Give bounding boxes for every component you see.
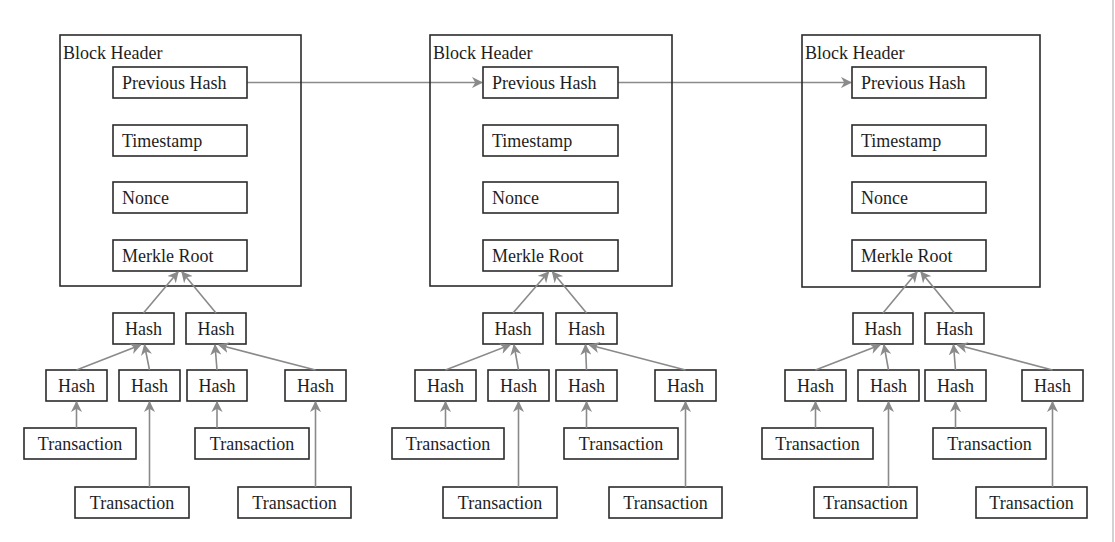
hash-node-l1: Hash <box>655 370 716 401</box>
field-nonce: Nonce <box>113 182 247 213</box>
hash-node-l1-label: Hash <box>500 376 537 396</box>
block-1: Block HeaderPrevious HashTimestampNonceM… <box>24 35 351 518</box>
transaction-node-label: Transaction <box>947 434 1031 454</box>
hash-node-l1-label: Hash <box>667 376 704 396</box>
field-nonce: Nonce <box>852 182 986 213</box>
block-header-title: Block Header <box>805 43 904 63</box>
field-timestamp: Timestamp <box>852 125 986 156</box>
field-previous-hash: Previous Hash <box>113 67 247 98</box>
transaction-node-label: Transaction <box>90 493 174 513</box>
hash-node-l2: Hash <box>556 313 617 344</box>
hash-node-l1-label: Hash <box>199 376 236 396</box>
hash-node-l1-label: Hash <box>937 376 974 396</box>
edge-l1-to-l2 <box>590 345 686 370</box>
edge-l1-to-l2 <box>145 345 150 370</box>
hash-node-l2-label: Hash <box>936 319 973 339</box>
transaction-node: Transaction <box>75 487 189 518</box>
transaction-node-label: Transaction <box>406 434 490 454</box>
edge-l2-to-root <box>883 272 917 313</box>
field-merkle-root-label: Merkle Root <box>861 246 953 266</box>
transaction-node: Transaction <box>762 428 873 459</box>
field-timestamp: Timestamp <box>113 125 247 156</box>
block-2: Block HeaderPrevious HashTimestampNonceM… <box>392 35 722 518</box>
field-previous-hash-label: Previous Hash <box>861 73 966 93</box>
edge-l2-to-root <box>182 272 216 313</box>
edge-l1-to-l2 <box>77 345 141 370</box>
transaction-node: Transaction <box>564 428 678 459</box>
transaction-node: Transaction <box>976 487 1087 518</box>
transaction-node: Transaction <box>195 428 309 459</box>
transaction-node-label: Transaction <box>252 493 336 513</box>
hash-node-l1-label: Hash <box>1034 376 1071 396</box>
transaction-node-label: Transaction <box>989 493 1073 513</box>
field-previous-hash-label: Previous Hash <box>492 73 597 93</box>
blockchain-diagram: Block HeaderPrevious HashTimestampNonceM… <box>0 0 1115 542</box>
field-timestamp-label: Timestamp <box>492 131 572 151</box>
field-nonce-label: Nonce <box>861 188 908 208</box>
hash-node-l2-label: Hash <box>125 319 162 339</box>
hash-node-l1-label: Hash <box>568 376 605 396</box>
edge-l2-to-root <box>144 272 179 313</box>
field-merkle-root-label: Merkle Root <box>492 246 584 266</box>
transaction-node-label: Transaction <box>579 434 663 454</box>
field-previous-hash: Previous Hash <box>852 67 986 98</box>
field-merkle-root: Merkle Root <box>852 240 986 271</box>
transaction-node-label: Transaction <box>458 493 542 513</box>
hash-node-l1: Hash <box>858 370 919 401</box>
edge-l1-to-l2 <box>884 345 889 370</box>
hash-node-l1: Hash <box>415 370 476 401</box>
transaction-node: Transaction <box>238 487 351 518</box>
edge-l1-to-l2 <box>958 345 1053 370</box>
field-timestamp: Timestamp <box>483 125 618 156</box>
hash-node-l1: Hash <box>187 370 247 401</box>
edge-l1-to-l2 <box>215 345 217 370</box>
hash-node-l2-label: Hash <box>568 319 605 339</box>
field-previous-hash: Previous Hash <box>483 67 618 98</box>
transaction-node: Transaction <box>609 487 722 518</box>
hash-node-l2: Hash <box>853 313 913 344</box>
field-merkle-root: Merkle Root <box>113 240 247 271</box>
transaction-node-label: Transaction <box>210 434 294 454</box>
transaction-node-label: Transaction <box>775 434 859 454</box>
field-nonce: Nonce <box>483 182 618 213</box>
hash-node-l2: Hash <box>483 313 543 344</box>
hash-node-l1-label: Hash <box>427 376 464 396</box>
hash-node-l2: Hash <box>925 313 984 344</box>
hash-node-l1-label: Hash <box>131 376 168 396</box>
hash-node-l1: Hash <box>285 370 346 401</box>
transaction-node: Transaction <box>933 428 1046 459</box>
edge-l2-to-root <box>553 272 587 313</box>
transaction-node-label: Transaction <box>823 493 907 513</box>
hash-node-l2-label: Hash <box>198 319 235 339</box>
hash-node-l1: Hash <box>925 370 986 401</box>
transaction-node-label: Transaction <box>38 434 122 454</box>
field-nonce-label: Nonce <box>492 188 539 208</box>
block-3: Block HeaderPrevious HashTimestampNonceM… <box>762 35 1087 518</box>
field-merkle-root-label: Merkle Root <box>122 246 214 266</box>
hash-node-l2: Hash <box>186 313 246 344</box>
field-previous-hash-label: Previous Hash <box>122 73 227 93</box>
hash-node-l2-label: Hash <box>865 319 902 339</box>
hash-node-l1-label: Hash <box>58 376 95 396</box>
blocks: Block HeaderPrevious HashTimestampNonceM… <box>24 35 1087 518</box>
hash-node-l1: Hash <box>488 370 549 401</box>
transaction-node: Transaction <box>24 428 136 459</box>
edge-l1-to-l2 <box>514 345 519 370</box>
block-header-title: Block Header <box>433 43 532 63</box>
transaction-node-label: Transaction <box>623 493 707 513</box>
transaction-node: Transaction <box>443 487 557 518</box>
hash-node-l1: Hash <box>46 370 107 401</box>
edge-l1-to-l2 <box>446 345 511 370</box>
hash-node-l2-label: Hash <box>495 319 532 339</box>
edge-l2-to-root <box>921 272 955 313</box>
edge-l2-to-root <box>513 272 549 313</box>
field-nonce-label: Nonce <box>122 188 169 208</box>
transaction-node: Transaction <box>392 428 504 459</box>
block-header-title: Block Header <box>63 43 162 63</box>
hash-node-l1-label: Hash <box>870 376 907 396</box>
hash-node-l1: Hash <box>556 370 617 401</box>
edge-l1-to-l2 <box>954 345 956 370</box>
edge-l1-to-l2 <box>816 345 881 370</box>
hash-node-l2: Hash <box>113 313 174 344</box>
hash-node-l1-label: Hash <box>297 376 334 396</box>
